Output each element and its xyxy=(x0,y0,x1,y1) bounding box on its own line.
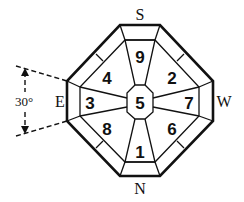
sector-bottom-left-number: 8 xyxy=(102,120,111,139)
sector-bottom-number: 1 xyxy=(135,143,144,162)
angle-label: 30° xyxy=(15,94,33,109)
sector-left-number: 3 xyxy=(85,94,94,113)
sector-bottom-right-number: 6 xyxy=(167,120,176,139)
sector-top-left-number: 4 xyxy=(102,69,112,88)
direction-bottom-label: N xyxy=(134,180,146,197)
sector-top-right-number: 2 xyxy=(167,69,176,88)
direction-top-label: S xyxy=(136,6,145,23)
octagon-diagram: 30° S N E W 9 2 7 6 1 8 3 4 5 xyxy=(0,0,244,202)
center-number: 5 xyxy=(135,94,144,113)
sector-right-number: 7 xyxy=(184,94,193,113)
direction-right-label: W xyxy=(216,93,232,110)
direction-left-label: E xyxy=(55,93,65,110)
sector-top-number: 9 xyxy=(135,48,144,67)
